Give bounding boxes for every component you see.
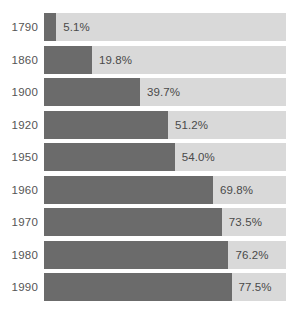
bar-row: 192051.2% <box>0 111 305 139</box>
bar-row: 190039.7% <box>0 78 305 106</box>
bar-track: 54.0% <box>44 143 286 171</box>
bar-fill <box>44 111 168 139</box>
bar-row: 199077.5% <box>0 273 305 301</box>
bar-track: 73.5% <box>44 208 286 236</box>
bar-fill <box>44 143 175 171</box>
plot-area: 17905.1%186019.8%190039.7%192051.2%19505… <box>0 0 305 312</box>
bar-track: 5.1% <box>44 13 286 41</box>
category-label: 1970 <box>0 208 38 236</box>
bar-fill <box>44 208 222 236</box>
bar-fill <box>44 78 140 106</box>
bar-value-label: 77.5% <box>239 273 272 301</box>
category-label: 1790 <box>0 13 38 41</box>
category-label: 1960 <box>0 176 38 204</box>
bar-fill <box>44 241 228 269</box>
bar-row: 186019.8% <box>0 46 305 74</box>
bar-value-label: 19.8% <box>99 46 132 74</box>
bar-row: 196069.8% <box>0 176 305 204</box>
bar-track: 39.7% <box>44 78 286 106</box>
bar-value-label: 76.2% <box>235 241 268 269</box>
bar-track: 76.2% <box>44 241 286 269</box>
bar-value-label: 5.1% <box>63 13 90 41</box>
category-label: 1950 <box>0 143 38 171</box>
bar-value-label: 69.8% <box>220 176 253 204</box>
bar-value-label: 39.7% <box>147 78 180 106</box>
bar-track: 51.2% <box>44 111 286 139</box>
bar-track: 77.5% <box>44 273 286 301</box>
category-label: 1990 <box>0 273 38 301</box>
bar-value-label: 73.5% <box>229 208 262 236</box>
bar-value-label: 51.2% <box>175 111 208 139</box>
bar-track: 19.8% <box>44 46 286 74</box>
bar-row: 198076.2% <box>0 241 305 269</box>
bar-fill <box>44 273 232 301</box>
bar-value-label: 54.0% <box>182 143 215 171</box>
category-label: 1860 <box>0 46 38 74</box>
bar-row: 197073.5% <box>0 208 305 236</box>
bar-track: 69.8% <box>44 176 286 204</box>
bar-fill <box>44 13 56 41</box>
bar-row: 17905.1% <box>0 13 305 41</box>
bar-fill <box>44 46 92 74</box>
category-label: 1920 <box>0 111 38 139</box>
category-label: 1980 <box>0 241 38 269</box>
bar-row: 195054.0% <box>0 143 305 171</box>
bar-fill <box>44 176 213 204</box>
horizontal-bar-chart: 17905.1%186019.8%190039.7%192051.2%19505… <box>0 0 305 312</box>
category-label: 1900 <box>0 78 38 106</box>
